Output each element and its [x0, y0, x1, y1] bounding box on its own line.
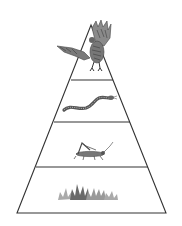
- food-pyramid-diagram: [0, 0, 182, 226]
